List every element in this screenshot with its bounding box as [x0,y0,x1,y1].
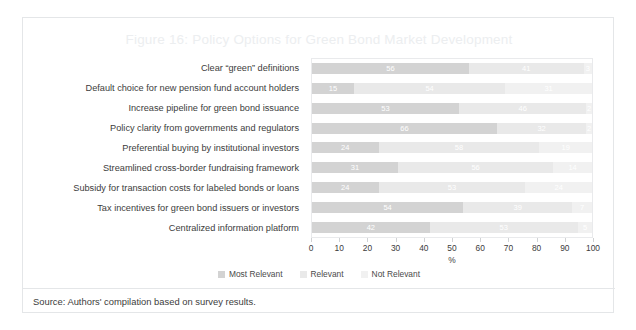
bar-segment: 2 [586,103,592,114]
bar-segment: 56 [312,63,469,74]
legend-swatch-icon [361,271,368,278]
plot-area: 5641315543153462663222458193156142453245… [311,58,593,238]
bar-segment: 15 [312,83,354,94]
category-label: Subsidy for transaction costs for labele… [37,183,305,194]
bar-segment: 24 [312,182,379,193]
chart-legend: Most RelevantRelevantNot Relevant [23,269,615,279]
bar-segment: 24 [312,142,379,153]
bar-segment: 2 [586,123,592,134]
x-axis-tick-label: 50 [447,243,456,253]
x-axis-tick-label: 70 [504,243,513,253]
bar-row: 54397 [312,202,592,213]
source-note: Source: Authors' compilation based on su… [33,296,256,307]
figure-card: Figure 16: Policy Options for Green Bond… [22,17,614,313]
legend-swatch-icon [300,271,307,278]
category-label: Clear “green” definitions [37,63,305,74]
x-axis-tick-mark [593,238,594,242]
legend-swatch-icon [218,271,225,278]
x-axis-tick-label: 40 [419,243,428,253]
x-axis-tick-label: 60 [476,243,485,253]
bar-segment: 58 [379,142,540,153]
x-axis-title: % [311,255,593,265]
x-axis-tick-label: 90 [560,243,569,253]
bar-segment: 56 [398,162,553,173]
x-axis-tick-label: 10 [335,243,344,253]
bar-row: 53462 [312,103,592,114]
x-axis-tick-label: 30 [391,243,400,253]
x-axis-tick-label: 100 [586,243,600,253]
bar-segment: 7 [572,202,592,213]
bar-segment: 42 [312,222,430,233]
legend-label: Most Relevant [229,269,283,279]
category-label: Increase pipeline for green bond issuanc… [37,103,305,114]
x-axis-tick-label: 0 [309,243,314,253]
bar-row: 56413 [312,63,592,74]
category-label: Tax incentives for green bond issuers or… [37,203,305,214]
x-axis-tick-label: 20 [363,243,372,253]
category-label: Preferential buying by institutional inv… [37,143,305,154]
bar-segment: 66 [312,123,497,134]
legend-item[interactable]: Not Relevant [361,269,420,279]
category-label: Streamlined cross-border fundraising fra… [37,163,305,174]
category-label: Default choice for new pension fund acco… [37,83,305,94]
bar-segment: 54 [312,202,463,213]
bar-row: 245324 [312,182,592,193]
x-axis-tick-label: 80 [532,243,541,253]
legend-label: Relevant [311,269,344,279]
category-label: Policy clarity from governments and regu… [37,123,305,134]
x-axis-tick-labels: 0102030405060708090100 [311,242,593,254]
bar-row: 66322 [312,123,592,134]
bar-segment: 19 [539,142,592,153]
bar-segment: 3 [584,63,592,74]
bar-row: 315614 [312,162,592,173]
chart-area: Clear “green” definitionsDefault choice … [37,58,601,266]
bar-row: 155431 [312,83,592,94]
bar-segment: 31 [312,162,398,173]
legend-label: Not Relevant [372,269,420,279]
legend-item[interactable]: Most Relevant [218,269,283,279]
bar-segment: 14 [553,162,592,173]
figure-title: Figure 16: Policy Options for Green Bond… [23,32,615,47]
category-axis-labels: Clear “green” definitionsDefault choice … [37,58,305,238]
bar-segment: 53 [379,182,526,193]
bar-segment: 41 [469,63,584,74]
bar-segment: 54 [354,83,505,94]
bar-segment: 24 [525,182,592,193]
bar-segment: 53 [430,222,578,233]
x-axis: 0102030405060708090100 % [311,238,593,266]
legend-item[interactable]: Relevant [300,269,344,279]
bar-segment: 46 [459,103,587,114]
bar-segment: 5 [578,222,592,233]
bar-segment: 39 [463,202,572,213]
stacked-bars: 5641315543153462663222458193156142453245… [312,59,592,237]
category-label: Centralized information platform [37,223,305,234]
bar-segment: 32 [497,123,587,134]
bar-row: 245819 [312,142,592,153]
bar-segment: 53 [312,103,459,114]
card-divider [23,288,615,289]
bar-row: 42535 [312,222,592,233]
bar-segment: 31 [505,83,592,94]
